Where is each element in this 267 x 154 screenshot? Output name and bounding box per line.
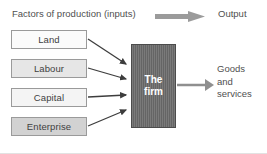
arrow-firm-to-output-head	[205, 79, 214, 91]
output-line-2: and	[217, 76, 252, 89]
factor-label-enterprise: Enterprise	[27, 121, 71, 132]
factor-box-capital: Capital	[11, 88, 87, 107]
firm-box: The firm	[131, 44, 176, 128]
inputs-heading: Factors of production (inputs)	[12, 8, 136, 20]
arrow-labour-to-firm	[88, 68, 126, 79]
firm-label-line1: The	[145, 74, 163, 86]
factor-box-land: Land	[11, 30, 87, 49]
factor-box-enterprise: Enterprise	[11, 117, 87, 136]
factor-label-capital: Capital	[34, 92, 64, 103]
production-process-diagram: Factors of production (inputs) Output La…	[0, 0, 267, 154]
output-text: Goods and services	[217, 63, 252, 101]
arrow-enterprise-to-firm	[88, 110, 126, 126]
arrow-land-to-firm	[88, 39, 126, 64]
output-heading: Output	[218, 8, 247, 20]
factor-label-land: Land	[38, 34, 60, 45]
output-line-1: Goods	[217, 63, 252, 76]
block-arrow-right-icon	[155, 11, 205, 22]
factor-box-labour: Labour	[11, 59, 87, 78]
factor-label-labour: Labour	[34, 63, 64, 74]
firm-label-line2: firm	[144, 86, 163, 98]
output-line-3: services	[217, 88, 252, 101]
arrow-capital-to-firm	[88, 95, 126, 97]
